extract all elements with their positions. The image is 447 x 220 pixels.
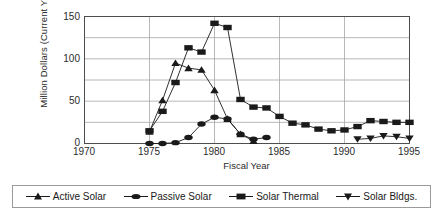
- legend-label-solar-thermal: Solar Thermal: [256, 192, 319, 202]
- x-axis-title: Fiscal Year: [84, 160, 409, 171]
- x-tick-1995: 1995: [386, 146, 432, 157]
- legend-label-active-solar: Active Solar: [53, 192, 106, 202]
- chart-figure: Million Dollars (Current Year) 150 100 5…: [0, 0, 447, 220]
- legend-label-solar-bldgs: Solar Bldgs.: [363, 192, 417, 202]
- triangle-down-icon: [336, 191, 360, 202]
- legend-item-active-solar: Active Solar: [26, 191, 106, 202]
- x-tick-1970: 1970: [61, 146, 107, 157]
- legend-item-solar-bldgs: Solar Bldgs.: [336, 191, 417, 202]
- legend-label-passive-solar: Passive Solar: [151, 192, 212, 202]
- x-tick-1980: 1980: [191, 146, 237, 157]
- legend-item-passive-solar: Passive Solar: [124, 191, 212, 202]
- triangle-up-icon: [26, 191, 50, 202]
- x-tick-1975: 1975: [126, 146, 172, 157]
- legend-item-solar-thermal: Solar Thermal: [229, 191, 319, 202]
- ellipse-icon: [124, 191, 148, 202]
- square-icon: [229, 191, 253, 202]
- x-tick-1990: 1990: [321, 146, 367, 157]
- chart-legend: Active Solar Passive Solar Solar Thermal…: [12, 185, 431, 208]
- x-tick-1985: 1985: [256, 146, 302, 157]
